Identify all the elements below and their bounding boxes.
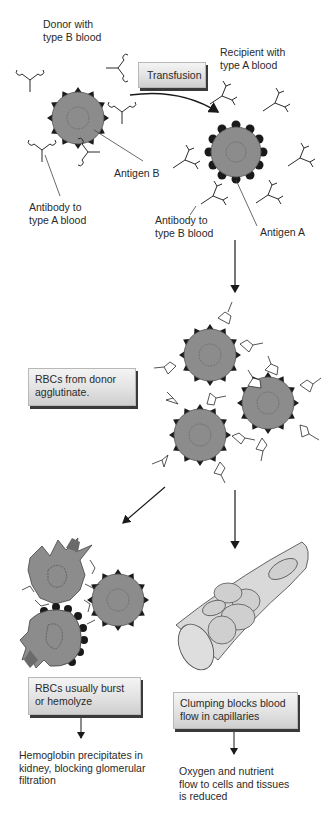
clumping-box: Clumping blocks blood flow in capillarie… — [173, 692, 298, 729]
diagram-canvas: Donor with type B blood Transfusion Reci… — [0, 0, 329, 815]
agglutinated-cells — [152, 302, 321, 483]
recipient-label: Recipient with type A blood — [220, 46, 285, 71]
hemoglobin-text: Hemoglobin precipitates in kidney, block… — [19, 749, 145, 787]
antigen-a-label: Antigen A — [260, 226, 305, 239]
capillary — [171, 542, 308, 676]
donor-cell — [47, 87, 109, 149]
oxygen-text: Oxygen and nutrient flow to cells and ti… — [179, 765, 289, 803]
antibody-to-a-label: Antibody to type A blood — [29, 201, 86, 226]
donor-label: Donor with type B blood — [43, 18, 101, 43]
recipient-cell — [205, 121, 268, 184]
agglutinate-box: RBCs from donor agglutinate. — [28, 368, 136, 406]
transfusion-box: Transfusion — [138, 62, 206, 88]
antigen-b-label: Antigen B — [114, 167, 160, 180]
burst-box: RBCs usually burst or hemolyze — [28, 677, 141, 715]
hemolyzed-cells — [20, 538, 149, 668]
antibody-to-b-label: Antibody to type B blood — [155, 214, 213, 239]
